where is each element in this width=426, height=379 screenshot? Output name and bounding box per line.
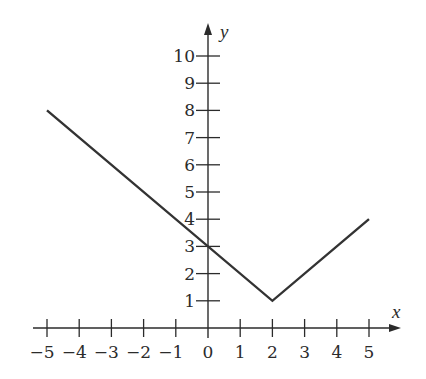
x-tick-label: 2	[267, 342, 278, 362]
x-tick-label: −5	[29, 342, 54, 362]
x-ticks: −5−4−3−2−1012345	[29, 319, 374, 362]
x-axis	[33, 324, 401, 332]
y-tick-label: 9	[184, 73, 195, 93]
x-tick-label: −2	[126, 342, 151, 362]
x-tick-label: −3	[94, 342, 119, 362]
x-tick-label: −4	[62, 342, 87, 362]
x-tick-label: 3	[299, 342, 310, 362]
x-tick-label: −1	[158, 342, 183, 362]
x-axis-arrow-icon	[389, 324, 401, 332]
chart: −5−4−3−2−1012345 12345678910 x y	[0, 0, 426, 379]
x-axis-label: x	[391, 301, 401, 322]
y-tick-label: 1	[184, 291, 195, 311]
y-axis	[204, 23, 212, 338]
y-tick-label: 7	[184, 128, 195, 148]
x-tick-label: 5	[364, 342, 375, 362]
y-tick-label: 8	[184, 100, 195, 120]
y-axis-label: y	[218, 21, 229, 42]
x-tick-label: 4	[331, 342, 342, 362]
x-tick-label: 0	[203, 342, 214, 362]
y-tick-label: 5	[184, 182, 195, 202]
y-axis-arrow-icon	[204, 23, 212, 35]
x-tick-label: 1	[235, 342, 246, 362]
y-tick-label: 2	[184, 264, 195, 284]
y-tick-label: 3	[184, 236, 195, 256]
y-ticks: 12345678910	[173, 46, 220, 311]
y-tick-label: 6	[184, 155, 195, 175]
y-tick-label: 10	[173, 46, 195, 66]
